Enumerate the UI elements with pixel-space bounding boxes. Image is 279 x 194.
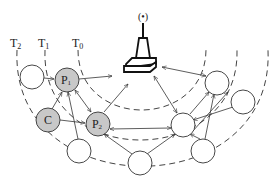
ring-label-t1: T1 xyxy=(38,36,49,51)
node-bottom-mid xyxy=(128,151,152,175)
node-left xyxy=(20,65,44,89)
node-bottom-right xyxy=(191,139,215,163)
node-c-label: C xyxy=(44,113,52,127)
node-mid-right xyxy=(171,113,195,137)
ring-label-t2: T2 xyxy=(10,36,21,51)
node-far-right xyxy=(231,90,255,114)
nodes xyxy=(20,65,255,175)
network-diagram: T2 T1 T0 (•) xyxy=(0,0,279,194)
node-right-top xyxy=(205,71,229,95)
base-station-icon: (•) xyxy=(124,11,156,72)
ring-label-t0: T0 xyxy=(72,36,83,51)
node-bottom-left xyxy=(67,139,91,163)
signal-waves-icon: (•) xyxy=(138,11,148,23)
